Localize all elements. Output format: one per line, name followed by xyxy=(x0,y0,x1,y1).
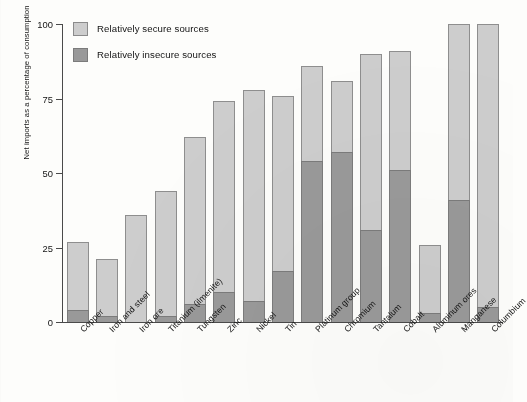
bar-aluminum-ores xyxy=(419,245,441,322)
legend-item-secure: Relatively secure sources xyxy=(73,21,216,36)
legend-swatch-secure-icon xyxy=(73,22,88,36)
chart-legend: Relatively secure sources Relatively ins… xyxy=(73,21,216,73)
y-tick-mark xyxy=(56,173,62,174)
y-tick-label: 75 xyxy=(43,93,53,104)
bar-segment-insecure xyxy=(301,161,323,322)
bar-titanium-ilmenite xyxy=(155,191,177,322)
y-tick-label: 50 xyxy=(43,168,53,179)
bar-columbium xyxy=(477,24,499,322)
legend-item-insecure: Relatively insecure sources xyxy=(73,47,216,62)
y-tick-label: 25 xyxy=(43,242,53,253)
legend-label-insecure: Relatively insecure sources xyxy=(97,49,216,60)
bar-manganese xyxy=(448,24,470,322)
y-tick-label: 0 xyxy=(48,317,53,328)
y-axis-title: Net imports as a percentage of consumpti… xyxy=(22,0,31,203)
bar-tin xyxy=(272,96,294,322)
bar-platinum-group xyxy=(301,66,323,322)
bar-chromium xyxy=(331,81,353,322)
bar-copper xyxy=(67,242,89,322)
bar-tantalum xyxy=(360,54,382,322)
y-tick-mark xyxy=(56,322,62,323)
y-tick-label: 100 xyxy=(37,19,53,30)
legend-swatch-insecure-icon xyxy=(73,48,88,62)
y-axis-line xyxy=(62,24,63,323)
y-tick-mark xyxy=(56,24,62,25)
y-tick-mark xyxy=(56,99,62,100)
bar-nickel xyxy=(243,90,265,322)
y-tick-mark xyxy=(56,248,62,249)
bar-cobalt xyxy=(389,51,411,322)
legend-label-secure: Relatively secure sources xyxy=(97,23,209,34)
bar-segment-insecure xyxy=(389,170,411,322)
